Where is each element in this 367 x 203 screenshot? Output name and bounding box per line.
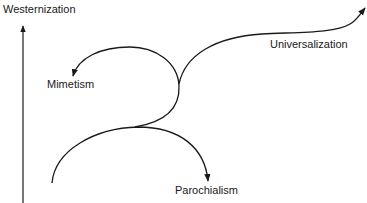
- parochialism-label: Parochialism: [175, 184, 238, 196]
- mimetism-label: Mimetism: [47, 78, 94, 90]
- parochialism-curve: [52, 127, 208, 183]
- westernization-axis-label: Westernization: [3, 3, 76, 15]
- universalization-label: Universalization: [270, 38, 348, 50]
- diagram-svg: [0, 0, 367, 203]
